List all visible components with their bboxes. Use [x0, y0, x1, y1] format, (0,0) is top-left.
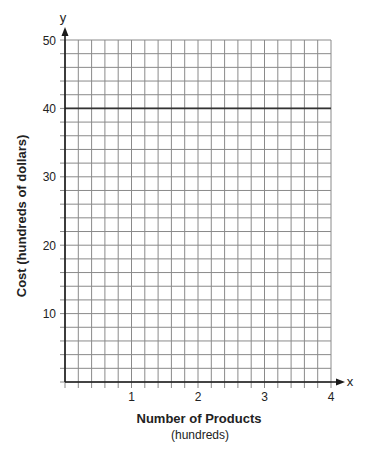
x-tick-label: 4 [328, 390, 335, 404]
y-axis-name: y [60, 10, 67, 25]
x-axis-name: x [347, 374, 354, 389]
x-axis-label-units: (hundreds) [171, 428, 229, 442]
y-tick-label: 40 [43, 102, 57, 116]
x-axis-label: Number of Products [137, 411, 262, 426]
y-tick-label: 50 [43, 34, 57, 48]
grid-lines [60, 40, 331, 388]
y-tick-label: 10 [43, 307, 57, 321]
y-axis-label: Cost (hundreds of dollars) [14, 135, 29, 298]
x-tick-label: 2 [195, 390, 202, 404]
x-axis-arrow-icon [336, 379, 345, 386]
chart-canvas: 12341020304050 y x Cost (hundreds of dol… [0, 0, 367, 457]
y-tick-label: 20 [43, 239, 57, 253]
y-tick-label: 30 [43, 170, 57, 184]
x-tick-label: 3 [261, 390, 268, 404]
coordinate-grid-chart: 12341020304050 y x Cost (hundreds of dol… [0, 0, 367, 457]
x-tick-label: 1 [128, 390, 135, 404]
y-axis-arrow-icon [62, 27, 69, 36]
